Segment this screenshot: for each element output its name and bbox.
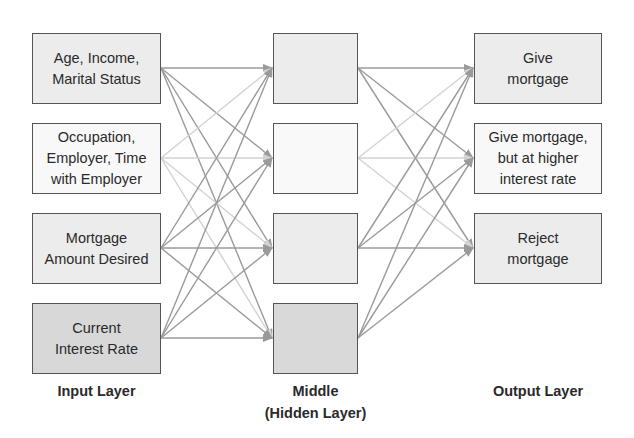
hidden-node-4 [273,303,358,374]
input-node-occupation-employer: Occupation, Employer, Time with Employer [32,123,161,194]
input-node-mortgage-amount: Mortgage Amount Desired [32,213,161,284]
input-layer-label: Input Layer [32,380,161,402]
hidden-layer-label: Middle (Hidden Layer) [240,380,391,424]
output-layer-label: Output Layer [474,380,602,402]
hidden-node-2 [273,123,358,194]
output-node-give-mortgage: Give mortgage [474,33,602,104]
hidden-node-3 [273,213,358,284]
hidden-node-1 [273,33,358,104]
output-node-reject: Reject mortgage [474,213,602,284]
output-node-higher-rate: Give mortgage, but at higher interest ra… [474,123,602,194]
input-node-interest-rate: Current Interest Rate [32,303,161,374]
input-node-age-income-marital: Age, Income, Marital Status [32,33,161,104]
